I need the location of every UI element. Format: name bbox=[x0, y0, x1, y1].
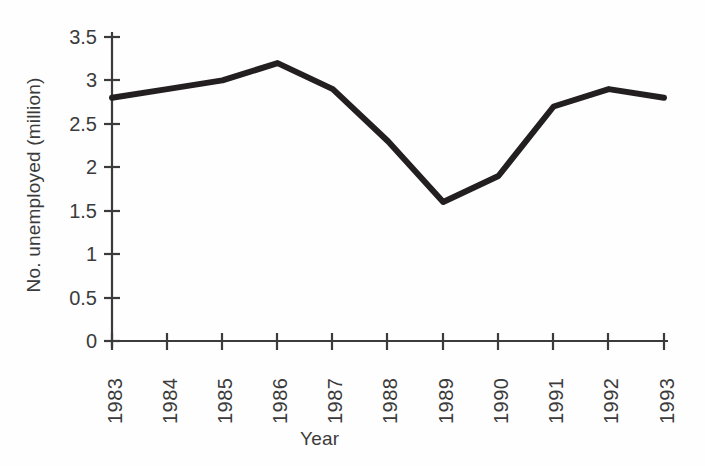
x-tick-label: 1986 bbox=[269, 378, 292, 425]
x-axis-tick-labels: 1983 1984 1985 1986 1987 1988 1989 1990 … bbox=[0, 0, 705, 466]
x-tick-label: 1984 bbox=[159, 378, 182, 425]
x-tick-label: 1992 bbox=[600, 378, 623, 425]
x-tick-label: 1985 bbox=[214, 378, 237, 425]
x-tick-label: 1990 bbox=[490, 378, 513, 425]
x-tick-label: 1993 bbox=[656, 378, 679, 425]
x-tick-label: 1989 bbox=[435, 378, 458, 425]
x-tick-label: 1987 bbox=[324, 378, 347, 425]
x-tick-label: 1991 bbox=[545, 378, 568, 425]
x-tick-label: 1988 bbox=[379, 378, 402, 425]
line-chart: No. unemployed (million) 0 0.5 1 1.5 2 2… bbox=[0, 0, 705, 466]
x-tick-label: 1983 bbox=[104, 378, 127, 425]
x-axis-title: Year bbox=[300, 428, 339, 450]
